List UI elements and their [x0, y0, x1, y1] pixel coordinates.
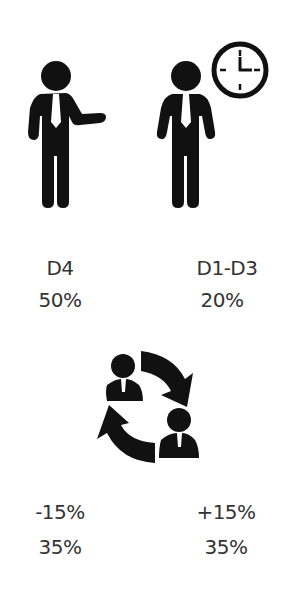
d1d3-label: D1-D3: [172, 256, 282, 280]
d4-value: 50%: [5, 288, 115, 312]
right-value: 35%: [171, 535, 281, 559]
people-exchange-icon: [85, 345, 210, 470]
clock-icon: [210, 40, 270, 100]
presenting-person-icon: [26, 60, 106, 210]
waiting-person-icon: [156, 60, 216, 210]
left-value: 35%: [5, 535, 115, 559]
d4-label: D4: [5, 256, 115, 280]
right-change: +15%: [171, 500, 281, 524]
left-change: -15%: [5, 500, 115, 524]
d1d3-value: 20%: [167, 288, 277, 312]
